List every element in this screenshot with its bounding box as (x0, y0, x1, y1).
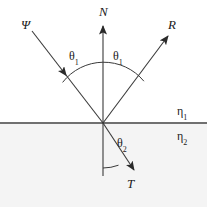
angle-reflection-symbol: θ (113, 49, 119, 63)
index-lower-subscript: 2 (183, 138, 187, 147)
index-upper-subscript: 1 (183, 113, 187, 122)
angle-refraction-subscript: 2 (123, 145, 127, 154)
angle-reflection-subscript: 1 (119, 58, 123, 67)
angle-incidence-subscript: 1 (75, 58, 79, 67)
angle-incidence-symbol: θ (69, 49, 75, 63)
optics-refraction-diagram: Ψ N R T θ1 θ1 θ2 η1 η2 (0, 0, 207, 207)
angle-incidence-label: θ1 (69, 50, 79, 65)
transmitted-ray-label: T (127, 177, 134, 190)
angle-reflection-label: θ1 (113, 50, 123, 65)
normal-label: N (99, 5, 108, 18)
incident-ray-label: Ψ (21, 18, 30, 31)
angle-refraction-symbol: θ (117, 136, 123, 150)
angle-refraction-label: θ2 (117, 137, 127, 152)
index-upper-label: η1 (177, 105, 187, 120)
index-lower-label: η2 (177, 130, 187, 145)
reflected-ray-label: R (168, 18, 176, 31)
